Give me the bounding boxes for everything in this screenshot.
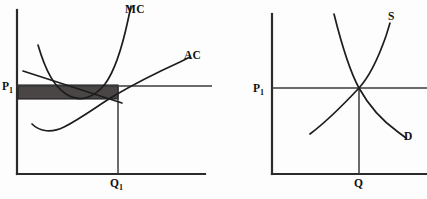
supply-label: S <box>388 10 395 22</box>
left-quantity-axis-label: Q1 <box>110 177 123 192</box>
right-panel-group: S D P1 Q <box>253 10 427 189</box>
mc-label: MC <box>125 3 145 15</box>
left-quantity-subscript: 1 <box>119 183 123 192</box>
left-quantity-letter: Q <box>110 177 119 189</box>
supply-curve <box>310 23 390 134</box>
figure-canvas: MC AC P1 Q1 S D P1 Q <box>0 0 427 199</box>
ac-label: AC <box>184 49 201 61</box>
right-price-axis-label: P1 <box>253 82 264 97</box>
right-price-subscript: 1 <box>260 88 264 97</box>
right-quantity-axis-label: Q <box>354 177 363 189</box>
left-panel-group: MC AC P1 Q1 <box>2 3 212 192</box>
left-price-subscript: 1 <box>9 86 13 95</box>
right-price-letter: P <box>253 82 260 94</box>
left-price-axis-label: P1 <box>2 80 13 95</box>
demand-curve <box>334 14 406 138</box>
demand-label: D <box>404 130 413 142</box>
left-price-letter: P <box>2 80 9 92</box>
economics-figure: MC AC P1 Q1 S D P1 Q <box>0 0 427 199</box>
